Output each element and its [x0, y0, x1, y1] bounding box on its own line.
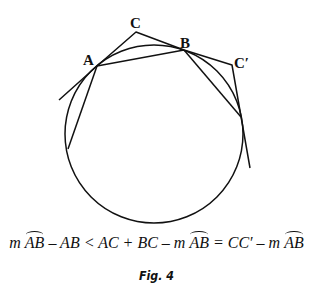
chord-b-down	[184, 50, 241, 117]
formula-m1: m	[9, 234, 25, 251]
arc-ab-3: AB	[284, 234, 304, 252]
label-a: A	[83, 52, 94, 68]
chord-ab	[97, 50, 184, 66]
circle-arc-diagram: A B C C′	[0, 0, 313, 300]
formula-m2: m	[174, 234, 190, 251]
label-b: B	[180, 35, 190, 51]
inequality-formula: m AB – AB < AC + BC – m AB = CC′ – m AB	[0, 234, 313, 252]
formula-m3: m	[269, 234, 285, 251]
formula-text-2: = CC′ –	[209, 234, 269, 251]
arc-ab-2: AB	[189, 234, 209, 252]
label-c: C	[130, 15, 141, 31]
arc-ab-1: AB	[25, 234, 45, 252]
figure-caption: Fig. 4	[23, 268, 289, 283]
formula-text-1: – AB < AC + BC –	[44, 234, 173, 251]
label-c-prime: C′	[234, 55, 249, 71]
